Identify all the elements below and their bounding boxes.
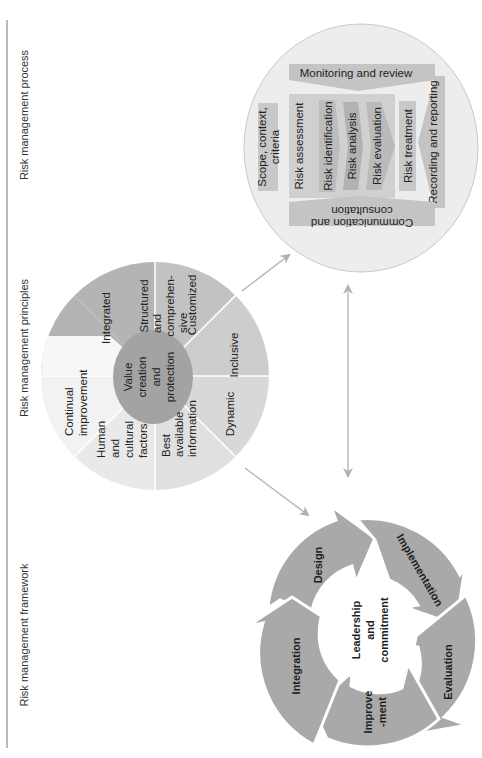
header-process: Risk management process: [18, 49, 30, 180]
arrow-principles-to-framework: [245, 468, 308, 515]
svg-text:and: and: [150, 367, 162, 386]
svg-text:Leadership: Leadership: [350, 600, 362, 659]
svg-text:Integration: Integration: [290, 637, 302, 694]
header-principles-text: Risk management principles: [18, 278, 30, 417]
svg-text:Design: Design: [312, 546, 324, 583]
svg-text:creation: creation: [136, 357, 148, 398]
svg-text:Evaluation: Evaluation: [442, 644, 454, 700]
svg-text:cultural: cultural: [123, 421, 135, 458]
core-line-4: protection: [164, 352, 176, 403]
svg-text:Human: Human: [95, 421, 107, 458]
header-framework-text: Risk management framework: [18, 563, 30, 707]
scope-line-2: criteria: [269, 129, 281, 164]
risk-assessment-label: Risk assessment: [293, 102, 305, 190]
communication-line-1: Communication and: [311, 217, 413, 229]
svg-text:Improve: Improve: [362, 691, 374, 734]
svg-text:commitment: commitment: [378, 597, 390, 663]
svg-text:Structured: Structured: [138, 279, 150, 332]
svg-text:Integrated: Integrated: [100, 292, 112, 344]
svg-text:-ment: -ment: [376, 697, 388, 727]
recording-reporting-label: Recording and reporting: [427, 80, 439, 203]
label-inclusive: Inclusive: [228, 333, 240, 378]
svg-text:Value: Value: [122, 363, 134, 392]
svg-text:Best: Best: [160, 433, 172, 457]
svg-text:Continual: Continual: [63, 387, 75, 436]
evaluation-label: Evaluation: [442, 644, 454, 700]
framework-cycle: Leadership and commitment Design Impleme…: [248, 506, 477, 752]
svg-text:protection: protection: [164, 352, 176, 403]
risk-evaluation-label: Risk evaluation: [371, 107, 383, 185]
risk-treatment-label: Risk treatment: [402, 108, 414, 183]
svg-text:comprehen-: comprehen-: [164, 275, 176, 337]
core-line-2: creation: [136, 357, 148, 398]
svg-text:factors: factors: [137, 423, 149, 458]
svg-text:Inclusive: Inclusive: [228, 333, 240, 378]
label-customized: Customized: [186, 275, 198, 336]
communication-line-2: consultation: [331, 205, 392, 217]
label-integrated: Integrated: [100, 292, 112, 344]
svg-text:available: available: [173, 412, 185, 457]
integration-label: Integration: [290, 637, 302, 694]
monitoring-review-label: Monitoring and review: [300, 67, 413, 79]
svg-text:information: information: [186, 400, 198, 457]
svg-text:and: and: [364, 620, 376, 640]
header-principles: Risk management principles: [18, 278, 30, 417]
header-process-text: Risk management process: [18, 49, 30, 180]
arrow-principles-to-process: [242, 255, 289, 291]
design-label: Design: [312, 546, 324, 583]
core-line-3: and: [150, 367, 162, 386]
risk-management-diagram: Risk management process Risk management …: [0, 0, 482, 758]
svg-text:and: and: [109, 439, 121, 458]
svg-text:and: and: [151, 314, 163, 333]
svg-text:Customized: Customized: [186, 275, 198, 336]
svg-text:Dynamic: Dynamic: [224, 391, 236, 436]
label-dynamic: Dynamic: [224, 391, 236, 436]
core-line-1: Value: [122, 363, 134, 392]
process-circle: Monitoring and review Recording and repo…: [244, 24, 478, 272]
risk-identification-label: Risk identification: [322, 101, 334, 190]
header-framework: Risk management framework: [18, 563, 30, 707]
scope-line-1: Scope, context,: [256, 107, 268, 186]
principles-wheel: Value creation and protection Integrated…: [41, 262, 269, 490]
svg-text:improvement: improvement: [77, 369, 89, 436]
risk-analysis-label: Risk analysis: [346, 112, 358, 179]
